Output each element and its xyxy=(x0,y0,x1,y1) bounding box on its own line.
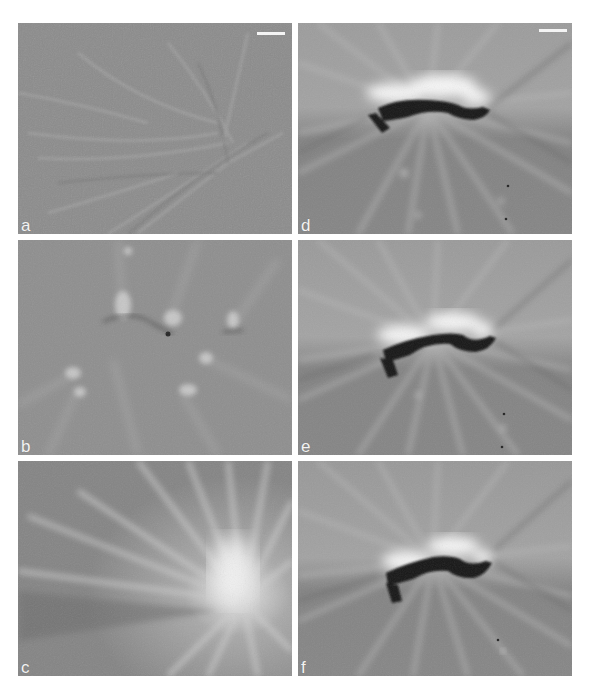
panel-c: c xyxy=(18,461,292,676)
panel-f: f xyxy=(298,461,572,676)
panel-label: d xyxy=(301,217,310,234)
scale-bar xyxy=(539,29,567,32)
panel-label: f xyxy=(301,659,306,676)
micrograph-d xyxy=(298,23,572,234)
panel-label: e xyxy=(301,438,310,455)
panel-a: a xyxy=(18,23,292,234)
panel-label: a xyxy=(21,217,30,234)
panel-label: c xyxy=(21,659,30,676)
panel-b: b xyxy=(18,240,292,455)
micrograph-b xyxy=(18,240,292,455)
micrograph-e xyxy=(298,240,572,455)
micrograph-c xyxy=(18,461,292,676)
micrograph-a xyxy=(18,23,292,234)
scale-bar xyxy=(257,32,285,35)
panel-e: e xyxy=(298,240,572,455)
panel-d: d xyxy=(298,23,572,234)
micrograph-f xyxy=(298,461,572,676)
panel-label: b xyxy=(21,438,30,455)
